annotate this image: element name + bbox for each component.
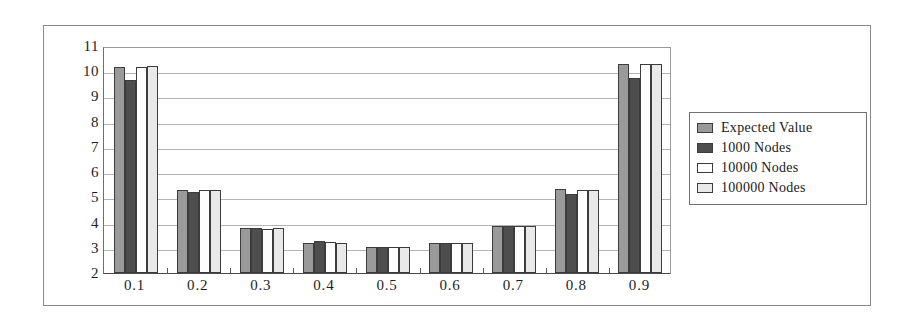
y-axis-tick-label: 5 xyxy=(59,190,99,205)
bar xyxy=(492,226,503,273)
bar xyxy=(210,190,221,273)
x-axis-tick-label: 0.5 xyxy=(355,276,418,294)
y-axis-tick-label: 9 xyxy=(59,89,99,104)
bar-group xyxy=(546,48,609,273)
chart-legend: Expected Value1000 Nodes10000 Nodes10000… xyxy=(689,112,867,205)
bar xyxy=(525,226,536,273)
bar-group xyxy=(167,48,230,273)
bar xyxy=(240,228,251,273)
legend-swatch-icon xyxy=(697,123,713,133)
y-axis-tick-label: 6 xyxy=(59,165,99,180)
bar xyxy=(651,64,662,273)
bar xyxy=(514,226,525,273)
bar xyxy=(336,243,347,273)
bar xyxy=(399,247,410,273)
legend-swatch-icon xyxy=(697,143,713,153)
axis-tick-mark xyxy=(167,268,168,273)
chart-frame: 111098765432 0.10.20.30.40.50.60.70.80.9… xyxy=(43,25,871,306)
bar xyxy=(462,243,473,273)
legend-item-label: 100000 Nodes xyxy=(721,180,806,196)
y-axis: 111098765432 xyxy=(44,47,99,274)
y-axis-tick-label: 11 xyxy=(59,39,99,54)
bar xyxy=(629,78,640,273)
bar-group xyxy=(230,48,293,273)
legend-item[interactable]: Expected Value xyxy=(697,118,859,138)
legend-item[interactable]: 10000 Nodes xyxy=(697,158,859,178)
bar-group xyxy=(293,48,356,273)
plot-area xyxy=(103,47,671,274)
axis-tick-mark xyxy=(609,268,610,273)
axis-tick-mark xyxy=(483,268,484,273)
legend-item[interactable]: 1000 Nodes xyxy=(697,138,859,158)
bar xyxy=(188,192,199,273)
x-axis-tick-label: 0.9 xyxy=(608,276,671,294)
bar xyxy=(388,247,399,273)
bar xyxy=(377,247,388,273)
y-axis-tick-label: 7 xyxy=(59,140,99,155)
bar xyxy=(440,243,451,273)
bar xyxy=(429,243,440,273)
bar-group xyxy=(483,48,546,273)
bar xyxy=(577,190,588,273)
axis-tick-mark xyxy=(230,268,231,273)
bar xyxy=(262,229,273,273)
axis-tick-mark xyxy=(356,268,357,273)
x-axis-tick-label: 0.8 xyxy=(545,276,608,294)
x-axis: 0.10.20.30.40.50.60.70.80.9 xyxy=(103,276,671,304)
bar xyxy=(325,242,336,273)
axis-tick-mark xyxy=(546,268,547,273)
bar xyxy=(177,190,188,273)
legend-item-label: 10000 Nodes xyxy=(721,160,799,176)
bar-group xyxy=(420,48,483,273)
legend-item-label: Expected Value xyxy=(721,120,812,136)
bar xyxy=(136,67,147,273)
x-axis-tick-label: 0.7 xyxy=(482,276,545,294)
legend-item-label: 1000 Nodes xyxy=(721,140,791,156)
chart-figure: 111098765432 0.10.20.30.40.50.60.70.80.9… xyxy=(0,0,912,325)
bar xyxy=(451,243,462,273)
bar xyxy=(588,190,599,273)
bar xyxy=(273,228,284,273)
bar xyxy=(147,66,158,273)
bar xyxy=(640,64,651,273)
bar xyxy=(618,64,629,273)
bar-group xyxy=(356,48,419,273)
bar xyxy=(199,190,210,273)
bar-group xyxy=(104,48,167,273)
bar-group xyxy=(609,48,672,273)
bar xyxy=(251,228,262,273)
bar xyxy=(125,80,136,273)
x-axis-tick-label: 0.4 xyxy=(292,276,355,294)
y-axis-tick-label: 4 xyxy=(59,216,99,231)
y-axis-tick-label: 10 xyxy=(59,64,99,79)
y-axis-tick-label: 2 xyxy=(59,266,99,281)
bar xyxy=(555,189,566,273)
axis-tick-mark xyxy=(293,268,294,273)
x-axis-tick-label: 0.6 xyxy=(419,276,482,294)
x-axis-tick-label: 0.3 xyxy=(229,276,292,294)
bar xyxy=(114,67,125,273)
legend-swatch-icon xyxy=(697,183,713,193)
bar xyxy=(366,247,377,273)
bar xyxy=(503,226,514,273)
bar xyxy=(314,241,325,273)
bar xyxy=(303,243,314,273)
x-axis-tick-label: 0.2 xyxy=(166,276,229,294)
legend-item[interactable]: 100000 Nodes xyxy=(697,178,859,198)
bar xyxy=(566,194,577,273)
x-axis-tick-label: 0.1 xyxy=(103,276,166,294)
axis-tick-mark xyxy=(420,268,421,273)
y-axis-tick-label: 3 xyxy=(59,241,99,256)
y-axis-tick-label: 8 xyxy=(59,115,99,130)
legend-swatch-icon xyxy=(697,163,713,173)
